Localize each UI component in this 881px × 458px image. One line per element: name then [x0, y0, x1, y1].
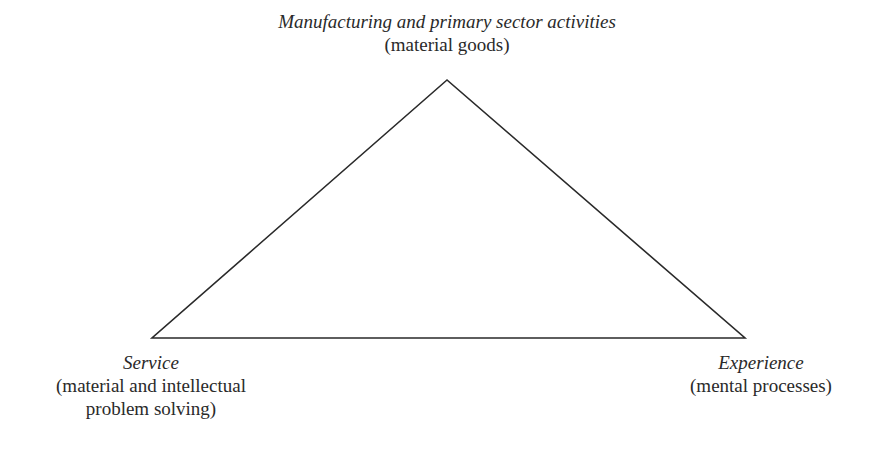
left-vertex-subtitle-line-2: problem solving): [20, 397, 282, 420]
top-vertex-label: Manufacturing and primary sector activit…: [200, 10, 694, 56]
left-vertex-subtitle-line-1: (material and intellectual: [20, 374, 282, 397]
right-vertex-subtitle: (mental processes): [651, 374, 871, 397]
top-vertex-title: Manufacturing and primary sector activit…: [200, 10, 694, 33]
top-vertex-subtitle: (material goods): [200, 33, 694, 56]
triangle-shape: [152, 80, 745, 338]
left-vertex-label: Service (material and intellectual probl…: [20, 351, 282, 420]
right-vertex-label: Experience (mental processes): [651, 351, 871, 397]
left-vertex-title: Service: [20, 351, 282, 374]
right-vertex-title: Experience: [651, 351, 871, 374]
